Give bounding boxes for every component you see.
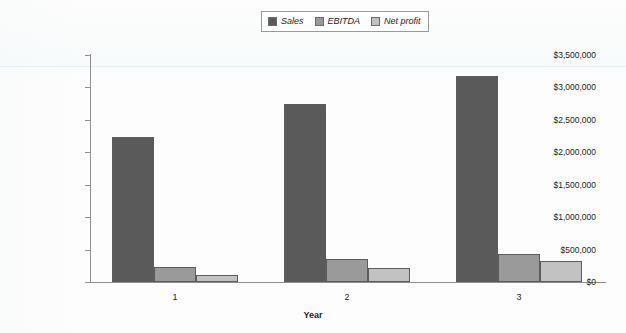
bar[interactable] [498, 254, 540, 282]
legend-swatch-sales [268, 17, 277, 26]
y-axis-tick [85, 250, 90, 251]
legend-item-sales[interactable]: Sales [268, 17, 304, 26]
y-axis-tick-label: $1,500,000 [553, 180, 596, 190]
legend-swatch-ebitda [315, 17, 324, 26]
y-axis-tick-label: $2,500,000 [553, 115, 596, 125]
y-axis-tick [85, 282, 90, 283]
y-axis-tick-label: $3,500,000 [553, 50, 596, 60]
x-axis-title: Year [0, 310, 626, 320]
y-axis-tick [85, 152, 90, 153]
bar[interactable] [284, 104, 326, 282]
y-axis-tick [85, 120, 90, 121]
x-tick-label: 1 [172, 292, 177, 302]
legend-label-sales: Sales [281, 17, 304, 26]
x-tick-label: 2 [344, 292, 349, 302]
y-axis-tick [85, 217, 90, 218]
y-axis-tick-label: $1,000,000 [553, 212, 596, 222]
y-axis-tick-label: $2,000,000 [553, 147, 596, 157]
y-axis-tick-label: $500,000 [561, 245, 596, 255]
y-axis-tick [85, 185, 90, 186]
bar-chart: Sales EBITDA Net profit $0$500,000$1,000… [0, 0, 626, 333]
x-tick-label: 3 [516, 292, 521, 302]
y-axis-tick [85, 87, 90, 88]
legend-label-net-profit: Net profit [384, 17, 421, 26]
legend-item-ebitda[interactable]: EBITDA [315, 17, 361, 26]
legend-label-ebitda: EBITDA [328, 17, 361, 26]
y-axis-tick-label: $0 [587, 277, 596, 287]
bar[interactable] [196, 275, 238, 282]
bar[interactable] [326, 259, 368, 282]
legend-item-net-profit[interactable]: Net profit [371, 17, 421, 26]
chart-legend: Sales EBITDA Net profit [261, 11, 429, 32]
bar[interactable] [112, 137, 154, 282]
plot-area: $0$500,000$1,000,000$1,500,000$2,000,000… [90, 55, 606, 282]
bar[interactable] [540, 261, 582, 282]
bar[interactable] [456, 76, 498, 282]
bar[interactable] [154, 267, 196, 282]
bar[interactable] [368, 268, 410, 282]
y-axis-tick-label: $3,000,000 [553, 82, 596, 92]
x-axis-line [90, 282, 606, 283]
y-axis-tick [85, 55, 90, 56]
legend-swatch-net-profit [371, 17, 380, 26]
